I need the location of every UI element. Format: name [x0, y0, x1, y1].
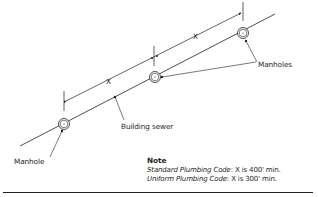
note-line-uniform: Uniform Plumbing Code: X is 300' min.	[147, 175, 277, 183]
manhole-spacing-diagram: X X Manholes Building sewer Manhole Note…	[0, 0, 318, 197]
distance-label-2: X	[193, 32, 198, 41]
note-rule-uniform: : X is 300' min.	[227, 175, 277, 183]
note-code-uniform: Uniform Plumbing Code	[147, 175, 227, 183]
note-title: Note	[147, 156, 167, 165]
leader-building-sewer	[115, 97, 124, 120]
distance-label-1: X	[106, 77, 111, 86]
bottom-rule	[3, 192, 313, 193]
building-sewer-label: Building sewer	[121, 122, 173, 131]
manhole-icon-1	[59, 119, 70, 130]
leader-manhole	[50, 131, 62, 157]
manholes-label: Manholes	[258, 60, 292, 69]
manhole-label: Manhole	[14, 157, 44, 166]
manhole-icon-3	[238, 28, 249, 39]
dimension-line	[66, 13, 241, 101]
note-code-standard: Standard Plumbing Code	[147, 166, 231, 174]
note-rule-standard: : X is 400' min.	[231, 166, 281, 174]
note-line-standard: Standard Plumbing Code: X is 400' min.	[147, 166, 281, 174]
leader-manholes-b	[162, 62, 256, 77]
manhole-icon-2	[150, 72, 161, 83]
leader-manholes-a	[246, 41, 257, 62]
